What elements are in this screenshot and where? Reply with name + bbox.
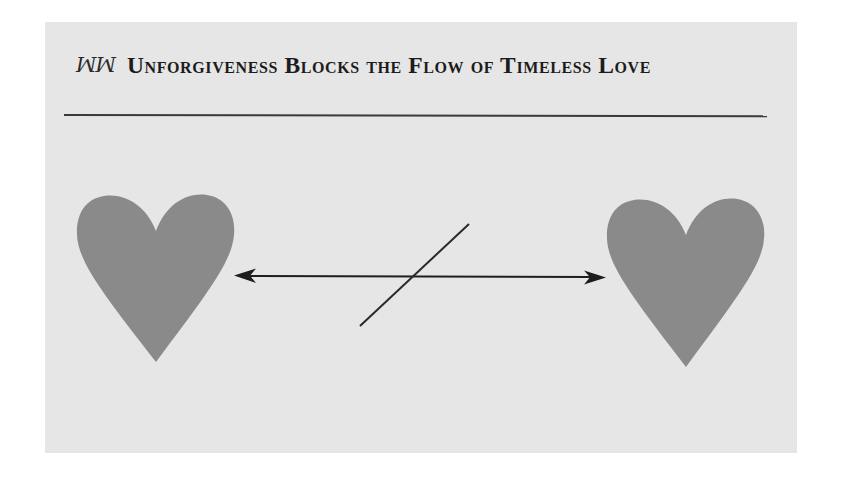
left-heart-icon	[77, 195, 234, 362]
right-heart-icon	[607, 199, 764, 367]
block-slash	[360, 224, 469, 326]
love-flow-diagram	[0, 0, 841, 484]
